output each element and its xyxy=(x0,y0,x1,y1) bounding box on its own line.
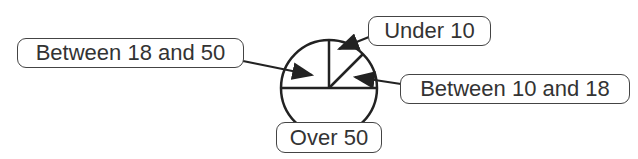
label-text: Over 50 xyxy=(290,125,368,151)
label-text: Between 18 and 50 xyxy=(36,40,226,66)
label-text: Between 10 and 18 xyxy=(420,76,610,102)
arrow-between-18-and-50 xyxy=(243,61,312,75)
label-over-50: Over 50 xyxy=(276,122,382,153)
label-between-18-and-50: Between 18 and 50 xyxy=(17,38,244,68)
label-text: Under 10 xyxy=(384,18,475,44)
label-under-10: Under 10 xyxy=(368,16,491,46)
divider-diagonal xyxy=(329,54,363,88)
label-between-10-and-18: Between 10 and 18 xyxy=(400,74,630,104)
arrow-between-10-and-18 xyxy=(355,77,401,84)
